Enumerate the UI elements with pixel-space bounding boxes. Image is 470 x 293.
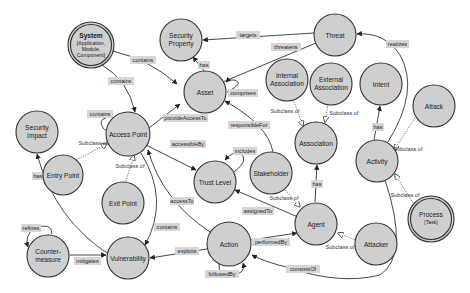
node-asset[interactable]: Asset bbox=[184, 71, 226, 113]
label-threatens: threatens bbox=[271, 43, 301, 51]
svg-text:has: has bbox=[199, 62, 208, 68]
label-targets: targets bbox=[236, 31, 260, 39]
label-security-impact-has: has bbox=[32, 172, 44, 180]
svg-text:Subclass of: Subclass of bbox=[326, 244, 355, 250]
svg-text:performedBy: performedBy bbox=[255, 239, 287, 245]
node-external-association[interactable]: External Association bbox=[310, 63, 352, 105]
node-vulnerability[interactable]: Vulnerability bbox=[107, 237, 149, 279]
node-security-impact[interactable]: Security Impact bbox=[16, 111, 58, 153]
label-activity-has-intent: has bbox=[372, 123, 384, 131]
svg-text:Attacker: Attacker bbox=[364, 241, 389, 248]
label-comprises: comprises bbox=[228, 89, 258, 97]
svg-text:Asset: Asset bbox=[197, 89, 214, 96]
svg-text:assignedTo: assignedTo bbox=[244, 208, 272, 214]
svg-text:Action: Action bbox=[220, 241, 239, 248]
edge-process-subclass-of-activity bbox=[395, 174, 413, 203]
svg-text:responsibleFor: responsibleFor bbox=[231, 122, 268, 128]
svg-text:has: has bbox=[373, 124, 382, 130]
label-realizes: realizes bbox=[386, 40, 409, 48]
label-system-contains-asset: contains bbox=[130, 56, 156, 64]
svg-text:comprises: comprises bbox=[230, 90, 256, 96]
svg-text:Property: Property bbox=[169, 40, 195, 48]
node-action[interactable]: Action bbox=[207, 222, 251, 266]
node-system[interactable]: System [Application, Module, Component] bbox=[68, 22, 114, 68]
node-attacker[interactable]: Attacker bbox=[355, 223, 397, 265]
label-subclass-external-association: Subclass of bbox=[330, 110, 359, 116]
svg-text:includes: includes bbox=[235, 148, 256, 154]
svg-text:Subclass of: Subclass of bbox=[330, 110, 359, 116]
ontology-diagram: contains contains targets threatens has … bbox=[0, 0, 470, 293]
svg-text:targets: targets bbox=[239, 32, 256, 38]
label-subclass-exit-point: Subclass of bbox=[116, 163, 145, 169]
svg-text:contains: contains bbox=[111, 78, 132, 84]
svg-text:refines: refines bbox=[23, 225, 40, 231]
label-includes: includes bbox=[233, 147, 257, 155]
node-intent[interactable]: Intent bbox=[360, 63, 402, 105]
svg-text:contains: contains bbox=[90, 111, 111, 117]
label-access-to: accessTo bbox=[170, 197, 194, 205]
svg-text:Process: Process bbox=[419, 211, 444, 218]
svg-text:Association: Association bbox=[314, 84, 348, 91]
svg-text:threatens: threatens bbox=[274, 44, 298, 50]
svg-text:consistsOf: consistsOf bbox=[290, 266, 317, 272]
svg-text:Stakeholder: Stakeholder bbox=[253, 170, 289, 177]
edge-external-association-subclass-of-association bbox=[325, 104, 328, 122]
svg-text:Access Point: Access Point bbox=[109, 131, 147, 138]
svg-text:System: System bbox=[79, 32, 103, 40]
svg-text:Subclass of: Subclass of bbox=[271, 108, 300, 114]
node-entry-point[interactable]: Entry Point bbox=[43, 155, 83, 195]
svg-text:Association: Association bbox=[270, 80, 304, 87]
svg-text:Vulnerability: Vulnerability bbox=[110, 255, 146, 263]
svg-text:Subclass of: Subclass of bbox=[79, 140, 108, 146]
node-agent[interactable]: Agent bbox=[295, 203, 337, 245]
node-access-point[interactable]: Access Point bbox=[106, 112, 150, 156]
node-activity[interactable]: Activity bbox=[356, 140, 398, 182]
node-exit-point[interactable]: Exit Point bbox=[102, 182, 144, 224]
svg-text:contains: contains bbox=[157, 224, 178, 230]
svg-text:Component]: Component] bbox=[77, 52, 106, 58]
label-system-contains-access-point: contains bbox=[108, 77, 134, 85]
svg-text:Trust Level: Trust Level bbox=[199, 179, 232, 186]
svg-text:realizes: realizes bbox=[388, 41, 407, 47]
svg-text:Internal: Internal bbox=[276, 72, 299, 79]
svg-text:Security: Security bbox=[169, 32, 194, 40]
node-stakeholder[interactable]: Stakeholder bbox=[250, 152, 292, 194]
svg-text:Threat: Threat bbox=[325, 32, 344, 39]
node-countermeasure[interactable]: Counter- measure bbox=[27, 235, 69, 277]
svg-text:measure: measure bbox=[35, 256, 61, 263]
label-subclass-process: Subclass of bbox=[391, 192, 420, 198]
svg-text:Subclass of: Subclass of bbox=[270, 195, 299, 201]
svg-text:Association: Association bbox=[299, 140, 333, 147]
svg-text:accessTo: accessTo bbox=[170, 198, 193, 204]
label-subclass-stakeholder: Subclass of bbox=[270, 195, 299, 201]
svg-text:Security: Security bbox=[25, 124, 50, 132]
label-provide-access-to: provideAccessTo bbox=[163, 114, 208, 122]
node-security-property[interactable]: Security Property bbox=[160, 19, 202, 61]
label-has-security-property: has bbox=[198, 61, 210, 69]
svg-text:has: has bbox=[33, 173, 42, 179]
label-agent-has-association: has bbox=[311, 180, 323, 188]
svg-text:Subclass of: Subclass of bbox=[116, 163, 145, 169]
label-accessible-by: accessibleBy bbox=[170, 140, 206, 148]
svg-text:Intent: Intent bbox=[373, 81, 390, 88]
label-performed-by: performedBy bbox=[252, 238, 290, 246]
label-subclass-internal-association: Subclass of bbox=[271, 108, 300, 114]
node-process[interactable]: Process [Task] bbox=[408, 196, 454, 242]
svg-text:Subclass of: Subclass of bbox=[391, 192, 420, 198]
node-attack[interactable]: Attack bbox=[413, 85, 455, 127]
node-threat[interactable]: Threat bbox=[314, 14, 356, 56]
svg-text:[Task]: [Task] bbox=[424, 219, 438, 225]
label-subclass-attacker: Subclass of bbox=[326, 244, 355, 250]
edge-entry-point-subclass-of-access-point bbox=[76, 144, 107, 160]
node-trust-level[interactable]: Trust Level bbox=[194, 161, 236, 203]
svg-text:mitigates: mitigates bbox=[76, 258, 99, 264]
label-mitigates: mitigates bbox=[74, 257, 101, 265]
svg-text:Activity: Activity bbox=[367, 158, 389, 166]
node-internal-association[interactable]: Internal Association bbox=[266, 59, 308, 101]
svg-text:provideAccessTo: provideAccessTo bbox=[164, 115, 206, 121]
edge-system-contains-access-point bbox=[102, 65, 135, 112]
edge-attacker-subclass-of-agent bbox=[338, 233, 355, 240]
label-consists-of: consistsOf bbox=[286, 265, 320, 273]
nodes: System [Application, Module, Component] … bbox=[16, 14, 455, 279]
node-association[interactable]: Association bbox=[295, 122, 337, 164]
